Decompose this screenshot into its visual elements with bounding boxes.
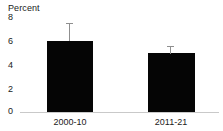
y-axis-tick-label: 6 — [8, 37, 20, 46]
x-axis-tick-label-2011-21: 2011-21 — [146, 117, 196, 127]
y-axis-tick-label: 8 — [8, 13, 20, 22]
bar-chart: Percent 8 6 4 2 0 2000-10 2011-21 — [0, 0, 223, 131]
error-bar-line-2000-10 — [69, 23, 70, 41]
bar-2011-21 — [148, 53, 195, 112]
y-axis-tick-label: 2 — [8, 85, 20, 94]
error-bar-cap-2000-10 — [66, 23, 73, 24]
y-axis-tick-label: 0 — [8, 107, 20, 116]
x-axis-tick-label-2000-10: 2000-10 — [45, 117, 95, 127]
bar-2000-10 — [47, 41, 93, 112]
error-bar-cap-2011-21 — [167, 46, 174, 47]
error-bar-line-2011-21 — [170, 46, 171, 54]
x-axis-baseline — [20, 112, 219, 113]
y-axis-tick-label: 4 — [8, 61, 20, 70]
